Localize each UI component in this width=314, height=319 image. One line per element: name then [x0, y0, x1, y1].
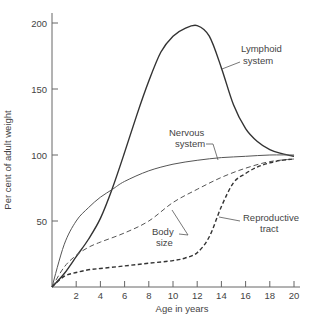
annotation-lymphoid-line1: Lymphoid: [241, 43, 282, 54]
x-tick-label: 16: [240, 290, 251, 301]
leader-body: [172, 210, 188, 235]
annotation-body-line2: size: [156, 237, 173, 248]
x-tick-label: 6: [122, 290, 127, 301]
x-tick-label: 18: [265, 290, 276, 301]
annotation-nervous-line1: Nervous: [169, 127, 205, 138]
x-tick-label: 4: [98, 290, 103, 301]
x-tick-label: 14: [216, 290, 227, 301]
x-tick-label: 10: [168, 290, 179, 301]
series-reproductive-tract-line: [52, 159, 294, 287]
annotation-body-line1: Body: [152, 226, 174, 237]
growth-curves-chart: 50100150200 2468101214161820 Per cent of…: [0, 0, 314, 319]
x-tick-label: 2: [74, 290, 79, 301]
y-axis-label: Per cent of adult weight: [2, 110, 13, 210]
y-tick-label: 200: [31, 18, 47, 29]
y-axis-ticks: 50100150200: [31, 18, 58, 227]
y-tick-label: 100: [31, 150, 47, 161]
x-tick-label: 20: [289, 290, 300, 301]
leader-reproductive: [219, 217, 240, 221]
annotation-reproductive-line1: Reproductive: [243, 212, 299, 223]
x-tick-label: 8: [146, 290, 151, 301]
x-tick-label: 12: [192, 290, 203, 301]
x-axis-ticks: 2468101214161820: [74, 281, 300, 301]
x-axis-label: Age in years: [156, 303, 209, 314]
annotation-lymphoid-line2: system: [243, 55, 273, 66]
series-body-size-line: [52, 159, 294, 287]
annotation-nervous-line2: system: [175, 138, 205, 149]
y-tick-label: 50: [36, 216, 47, 227]
annotation-reproductive-line2: tract: [260, 223, 279, 234]
y-tick-label: 150: [31, 84, 47, 95]
leader-lymphoid: [222, 62, 240, 69]
